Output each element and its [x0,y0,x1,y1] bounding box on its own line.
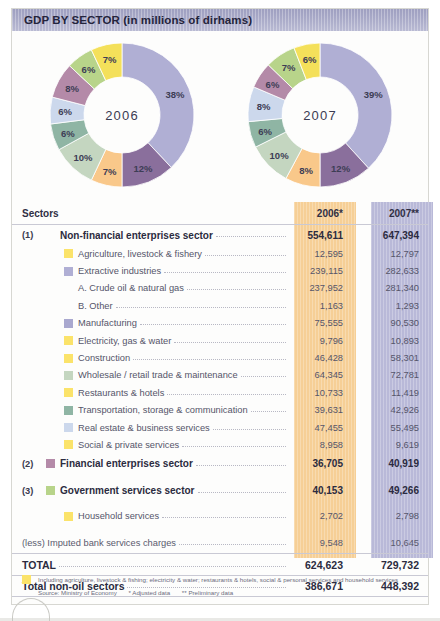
sector-color-swatch-placeholder [46,231,55,240]
row-value-2007: 40,919 [366,458,428,469]
leader-dots [198,485,286,493]
row-value-2007: 9,619 [366,440,428,450]
table-row: (3)Government services sector40,15349,26… [12,481,428,501]
donut-chart-2007: 2007 39%12%8%10%6%8%6%7%6% [218,37,418,197]
sector-color-swatch-icon [64,354,73,363]
leader-dots [167,387,286,395]
row-label: B. Other [78,301,113,311]
sector-color-swatch-icon [64,388,73,397]
row-label: TOTAL [22,559,56,571]
row-value-2007: 12,797 [366,249,428,259]
row-value-2007: 11,419 [366,388,428,398]
row-value-2006: 624,623 [289,559,351,571]
sector-color-swatch-icon [64,512,73,521]
table-row: A. Crude oil & natural gas237,952281,340 [12,280,428,297]
table-row: Social & private services8,9589,619 [12,436,428,453]
table-row: Construction46,42858,301 [12,349,428,366]
row-value-2006: 47,455 [289,423,351,433]
row-value-2006: 1,163 [289,301,351,311]
donut-slice-percent: 6% [303,53,317,64]
row-label: Financial enterprises sector [60,458,193,469]
row-value-2006: 9,796 [289,336,351,346]
row-value-2007: 2,798 [366,511,428,521]
row-value-2007: 10,893 [366,336,428,346]
table-row: Real estate & business services47,45555,… [12,419,428,436]
sector-color-swatch-icon [46,486,55,495]
row-number: (1) [22,230,46,240]
leader-dots [241,369,286,377]
row-value-2007: 282,633 [366,266,428,276]
row-value-2006: 39,631 [289,405,351,415]
footnote: Including agriculture, livestock & fishi… [12,574,428,599]
leader-dots [140,317,286,325]
row-label: Wholesale / retail trade & maintenance [78,370,238,380]
table-row: (1)Non-financial enterprises sector554,6… [12,225,428,245]
donut-slice-percent: 12% [133,162,152,173]
leader-dots [216,229,286,237]
leader-dots [196,458,286,466]
leader-dots [179,537,286,545]
row-value-2007: 647,394 [366,230,428,241]
row-value-2006: 64,345 [289,370,351,380]
donut-slice-percent: 7% [282,62,296,73]
row-value-2006: 237,952 [289,283,351,293]
donut-slice-percent: 10% [73,151,92,162]
row-value-2006: 36,705 [289,458,351,469]
table-row: Restaurants & hotels10,73311,419 [12,384,428,401]
table-row-imputed: (less) Imputed bank services charges9,54… [12,532,428,553]
table-row-total: TOTAL624,623729,732 [12,553,428,575]
leader-dots [133,352,286,360]
sector-color-swatch-icon [64,440,73,449]
table-row: B. Other1,1631,293 [12,297,428,314]
donut-slice-percent: 6% [82,63,96,74]
row-value-2007: 49,266 [366,485,428,496]
sector-color-swatch-icon [64,319,73,328]
row-label: Social & private services [78,440,179,450]
donut-slice-percent: 6% [61,127,75,138]
row-number: (3) [22,486,46,496]
footnote-source: Source: Ministry of Economy [38,587,117,599]
row-value-2006: 9,548 [289,538,351,548]
donut-slice-percent: 39% [364,89,383,100]
sector-color-swatch-icon [64,267,73,276]
table-body: Sectors2006*2007**(1)Non-financial enter… [12,202,428,597]
donut-chart-2006: 2006 38%12%7%10%6%6%8%6%7% [20,37,220,197]
row-value-2007: 55,495 [366,423,428,433]
legend-swatch-yellow-icon [22,575,31,584]
row-label: Manufacturing [78,318,137,328]
sector-color-swatch-icon [64,371,73,380]
column-header-2007: 2007** [366,208,428,219]
donut-charts-area: 2006 38%12%7%10%6%6%8%6%7% 2007 39%12%8%… [12,33,428,200]
row-label: Agriculture, livestock & fishery [78,249,202,259]
row-value-2006: 2,702 [289,511,351,521]
donut-slice-percent: 8% [65,82,79,93]
table-row: Extractive industries239,115282,633 [12,262,428,279]
sector-color-swatch-icon [64,336,73,345]
leader-dots [213,422,286,430]
leader-dots [116,300,286,308]
leader-dots [162,510,286,518]
donut-slice-percent: 7% [103,165,117,176]
footnote-note: Including agriculture, livestock & fishi… [38,576,398,583]
table-row: (2)Financial enterprises sector36,70540,… [12,454,428,474]
row-value-2007: 1,293 [366,301,428,311]
row-label: Extractive industries [78,266,161,276]
leader-dots [164,265,286,273]
sector-color-swatch-icon [64,423,73,432]
leader-dots [182,439,286,447]
table-row: Electricity, gas & water9,79610,893 [12,332,428,349]
table-row: Manufacturing75,55590,530 [12,315,428,332]
row-value-2006: 8,958 [289,440,351,450]
page-title: GDP BY SECTOR (in millions of dirhams) [12,14,252,26]
row-label: Electricity, gas & water [78,336,171,346]
footnote-preliminary: ** Preliminary data [182,587,233,599]
donut-slice-percent: 8% [299,165,313,176]
row-label: Non-financial enterprises sector [60,230,213,241]
donut-slice-percent: 6% [258,125,272,136]
table-row: Transportation, storage & communication3… [12,402,428,419]
table-row: Household services2,7022,798 [12,508,428,525]
table-row: Wholesale / retail trade & maintenance64… [12,367,428,384]
footnote-adjusted: * Adjusted data [128,587,170,599]
table-row: Agriculture, livestock & fishery12,59512… [12,245,428,262]
